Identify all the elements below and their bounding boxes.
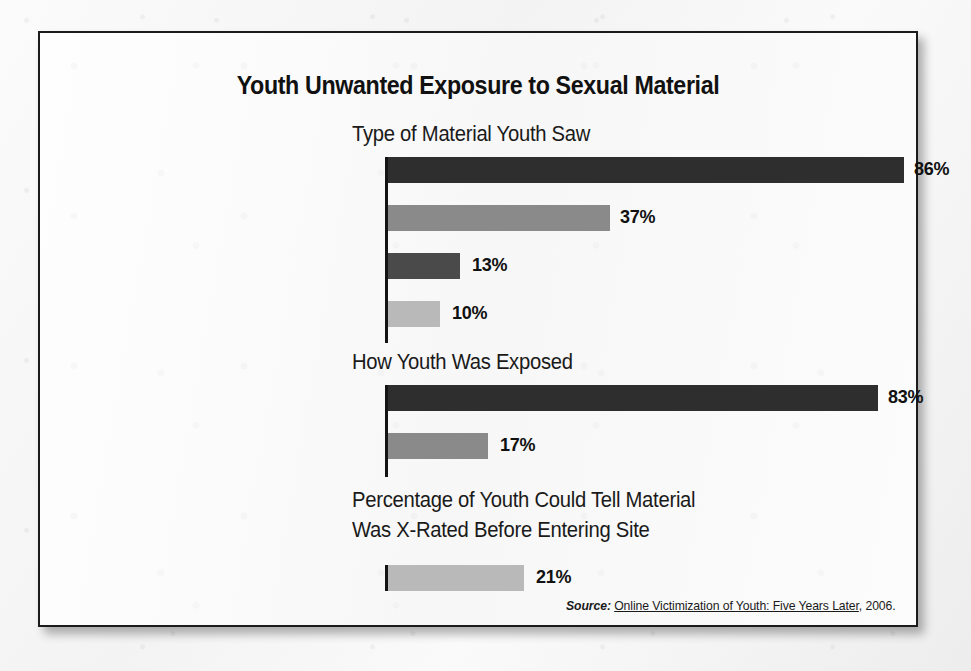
bar-opening-email-or-im	[388, 433, 488, 459]
bar-surfing-on-the-web	[388, 385, 878, 411]
section-heading-line-1: Percentage of Youth Could Tell Material	[352, 485, 784, 515]
bar-value-opening-email-or-im: 17%	[500, 435, 535, 456]
bar-value-violent-pictures: 13%	[472, 255, 507, 276]
source-label: Source:	[566, 598, 611, 613]
bar-value-people-having-sex: 37%	[620, 207, 655, 228]
section-heading-type-of-material: Type of Material Youth Saw	[352, 121, 590, 147]
bar-value-pictures-involving-animals: 10%	[452, 303, 487, 324]
section-heading-percentage-could-tell: Percentage of Youth Could Tell Material …	[352, 485, 784, 545]
source-year: , 2006.	[859, 598, 896, 613]
section-heading-how-youth-was-exposed: How Youth Was Exposed	[352, 349, 573, 375]
bar-people-having-sex	[388, 205, 610, 231]
bar-could-tell-x-rated	[388, 565, 524, 591]
bar-naked-people	[388, 157, 904, 183]
bar-violent-pictures	[388, 253, 460, 279]
source-note: Source: Online Victimization of Youth: F…	[566, 598, 896, 613]
bar-value-surfing-on-the-web: 83%	[888, 387, 923, 408]
chart-canvas: Youth Unwanted Exposure to Sexual Materi…	[40, 33, 916, 625]
chart-panel: Youth Unwanted Exposure to Sexual Materi…	[38, 31, 918, 627]
bar-value-could-tell-x-rated: 21%	[536, 567, 571, 588]
bar-value-naked-people: 86%	[914, 159, 949, 180]
page-title: Youth Unwanted Exposure to Sexual Materi…	[71, 71, 886, 100]
section-heading-line-2: Was X-Rated Before Entering Site	[352, 515, 784, 545]
bar-pictures-involving-animals	[388, 301, 440, 327]
source-title: Online Victimization of Youth: Five Year…	[615, 598, 860, 613]
